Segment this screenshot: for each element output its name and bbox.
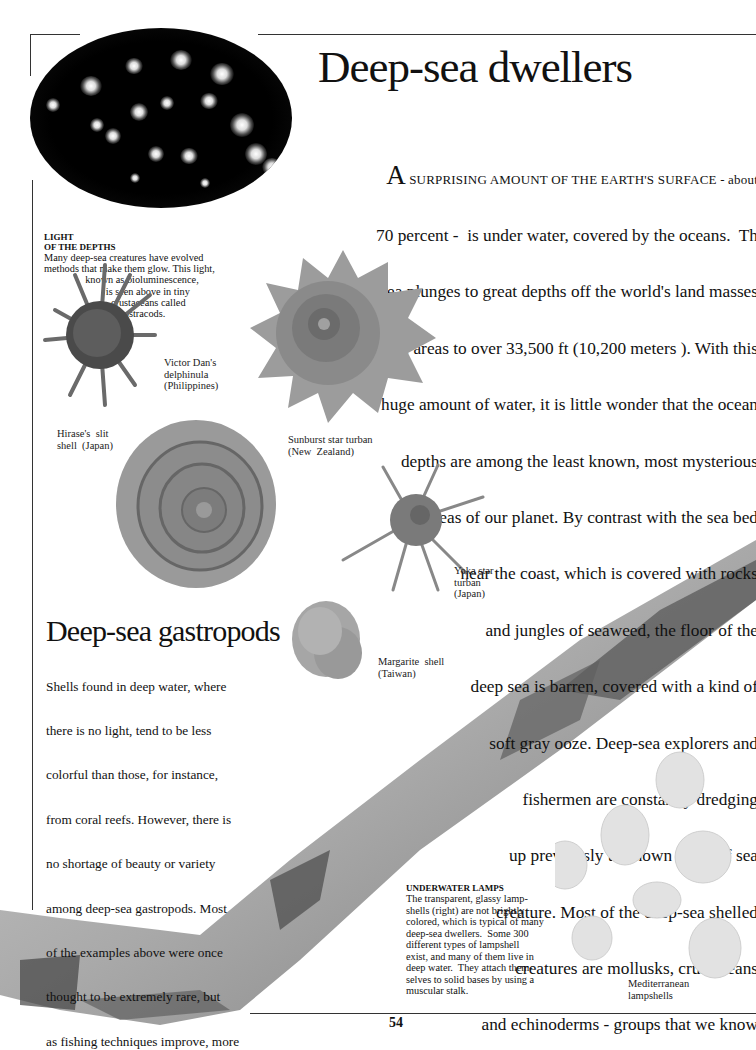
gastropods-line: among deep-sea gastropods. Most: [46, 902, 286, 917]
lampshells-label: Mediterranean lampshells: [628, 978, 689, 1001]
hirase-label: Hirase's slit shell (Japan): [57, 428, 113, 451]
frame-left-rule-top: [30, 34, 31, 76]
margarite-shell-photo: [286, 597, 370, 683]
gastropods-paragraph: Shells found in deep water, where there …: [46, 650, 286, 1050]
caption-line: shells (right) are not brightly: [406, 905, 576, 917]
gastropods-line: Shells found in deep water, where: [46, 680, 286, 695]
frame-top-rule: [258, 34, 756, 35]
intro-line: and echinoderms - groups that we know: [288, 1016, 756, 1035]
caption-line: muscular stalk.: [406, 985, 576, 997]
page-title: Deep-sea dwellers: [318, 42, 632, 92]
delphinula-label: Victor Dan's delphinula (Philippines): [164, 357, 218, 392]
caption-line: colored, which is typical of many: [406, 916, 576, 928]
gastropods-line: there is no light, tend to be less: [46, 724, 286, 739]
drop-cap: A: [386, 160, 406, 190]
caption-line: deep-sea dwellers. Some 300: [406, 928, 576, 940]
margarite-label: Margarite shell (Taiwan): [378, 656, 444, 679]
sunburst-label: Sunburst star turban (New Zealand): [288, 434, 373, 457]
frame-top-left-rule: [30, 34, 80, 35]
caption-line: The transparent, glassy lamp-: [406, 893, 576, 905]
caption-heading: LIGHT: [44, 232, 284, 242]
gastropods-line: no shortage of beauty or variety: [46, 857, 286, 872]
intro-first-line: A SURPRISING AMOUNT OF THE EARTH'S SURFA…: [288, 166, 756, 190]
gastropods-line: colorful than those, for instance,: [46, 768, 286, 783]
hirase-slit-shell-photo: [110, 414, 280, 589]
caption-line: deep water. They attach them-: [406, 962, 576, 974]
gastropods-line: from coral reefs. However, there is: [46, 813, 286, 828]
yoka-label: Yoka star turban (Japan): [454, 565, 493, 600]
caption-heading: UNDERWATER LAMPS: [406, 883, 576, 893]
sunburst-star-turban-photo: [248, 248, 438, 428]
section-heading-gastropods: Deep-sea gastropods: [46, 614, 280, 648]
gastropods-line: as fishing techniques improve, more: [46, 1035, 286, 1050]
underwater-lamps-caption: UNDERWATER LAMPS The transparent, glassy…: [406, 883, 576, 997]
intro-smallcaps: SURPRISING AMOUNT OF THE EARTH'S SURFACE…: [406, 172, 756, 187]
caption-line: different types of lampshell: [406, 939, 576, 951]
caption-line: selves to solid bases by using a: [406, 974, 576, 986]
page-number: 54: [389, 1015, 403, 1031]
delphinula-shell-photo: [35, 255, 165, 415]
glowing-ostracods-photo: [30, 28, 292, 208]
gastropods-line: thought to be extremely rare, but: [46, 990, 286, 1005]
gastropods-line: of the examples above were once: [46, 946, 286, 961]
caption-line: exist, and many of them live in: [406, 951, 576, 963]
intro-line: 70 percent - is under water, covered by …: [288, 227, 756, 246]
mediterranean-lampshells-photo: [555, 750, 756, 990]
